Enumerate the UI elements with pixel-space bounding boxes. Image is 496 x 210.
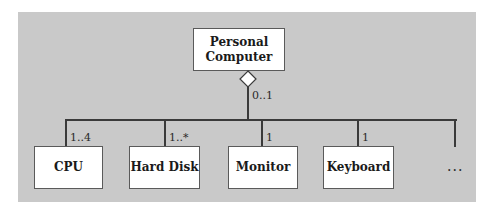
monitor-box: Monitor — [228, 146, 298, 189]
aggregation-diamond-icon — [239, 70, 257, 88]
keyboard-box: Keyboard — [323, 146, 394, 189]
keyboard-label: Keyboard — [327, 160, 391, 175]
whole-multiplicity: 0..1 — [252, 90, 273, 102]
drop-cpu — [65, 119, 67, 146]
drop-hard-disk — [164, 119, 166, 146]
drop-monitor — [261, 119, 263, 146]
hard-disk-multiplicity: 1..* — [169, 132, 189, 144]
whole-label-line1: Personal — [210, 35, 268, 50]
monitor-label: Monitor — [236, 160, 290, 175]
whole-label-line2: Computer — [206, 50, 273, 65]
cpu-multiplicity: 1..4 — [70, 132, 91, 144]
keyboard-multiplicity: 1 — [362, 132, 369, 144]
hard-disk-label: Hard Disk — [130, 160, 198, 175]
monitor-multiplicity: 1 — [266, 132, 273, 144]
cpu-box: CPU — [34, 146, 103, 189]
cpu-label: CPU — [54, 160, 83, 175]
personal-computer-box: Personal Computer — [193, 28, 285, 71]
hard-disk-box: Hard Disk — [129, 146, 200, 189]
drop-keyboard — [357, 119, 359, 146]
drop-more — [454, 119, 456, 147]
more-parts-ellipsis: ... — [447, 158, 463, 174]
trunk-line — [247, 87, 249, 121]
